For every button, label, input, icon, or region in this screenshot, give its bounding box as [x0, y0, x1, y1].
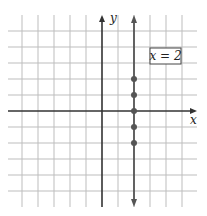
line-arrow-down-icon [131, 199, 137, 207]
y-axis-label: y [109, 11, 117, 25]
data-point [131, 108, 137, 114]
coordinate-plane: x = 2 y x [0, 0, 207, 216]
y-axis-arrow-icon [99, 15, 105, 22]
data-point [131, 140, 137, 146]
data-point [131, 124, 137, 130]
data-point [131, 92, 137, 98]
plotted-line [131, 15, 137, 207]
data-point [131, 76, 137, 82]
equation-label-box: x = 2 [149, 48, 181, 64]
line-arrow-up-icon [131, 15, 137, 23]
x-axis-label: x [190, 113, 197, 127]
axes [8, 15, 197, 207]
equation-label: x = 2 [149, 49, 181, 63]
